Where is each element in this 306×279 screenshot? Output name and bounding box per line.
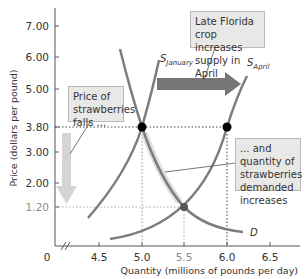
y-tick-5: 5.00 bbox=[26, 83, 49, 95]
quantity-note-leader bbox=[165, 163, 236, 172]
y-tick-6: 6.00 bbox=[26, 51, 49, 63]
x-tick-5-5: 5.5 bbox=[176, 251, 193, 263]
x-tick-5-0: 5.0 bbox=[134, 251, 151, 263]
supply-note: Late Florida crop increases supply in Ap… bbox=[190, 11, 265, 48]
y-tick-7: 7.00 bbox=[26, 20, 49, 32]
x-tick-6-5: 6.5 bbox=[262, 251, 279, 263]
excess-supply-dot bbox=[223, 123, 232, 132]
x-axis-title: Quantity (millions of pounds per day) bbox=[121, 265, 298, 276]
x-tick-6-0: 6.0 bbox=[219, 251, 236, 263]
y-axis-title: Price (dollars per pound) bbox=[8, 69, 19, 186]
x-tick-4-5: 4.5 bbox=[91, 251, 108, 263]
y-ticks bbox=[55, 26, 59, 207]
y-tick-2: 2.00 bbox=[26, 177, 49, 189]
s-april-label: SApril bbox=[247, 57, 269, 71]
equilibrium-april-dot bbox=[180, 203, 188, 211]
x-tick-0: 0 bbox=[44, 251, 51, 263]
quantity-note: ... and quantity of strawberries demande… bbox=[235, 138, 301, 191]
s-january-label: SJanuary bbox=[160, 53, 194, 67]
y-tick-3: 3.00 bbox=[26, 146, 49, 158]
demand-label: D bbox=[250, 227, 258, 238]
price-note: Price of strawberries falls ... bbox=[68, 86, 124, 122]
y-tick-1-20: 1.20 bbox=[26, 201, 49, 213]
y-tick-3-80: 3.80 bbox=[26, 121, 49, 133]
price-fall-arrow-icon bbox=[56, 133, 77, 204]
demand-highlight bbox=[145, 135, 178, 200]
equilibrium-january-dot bbox=[138, 123, 147, 132]
